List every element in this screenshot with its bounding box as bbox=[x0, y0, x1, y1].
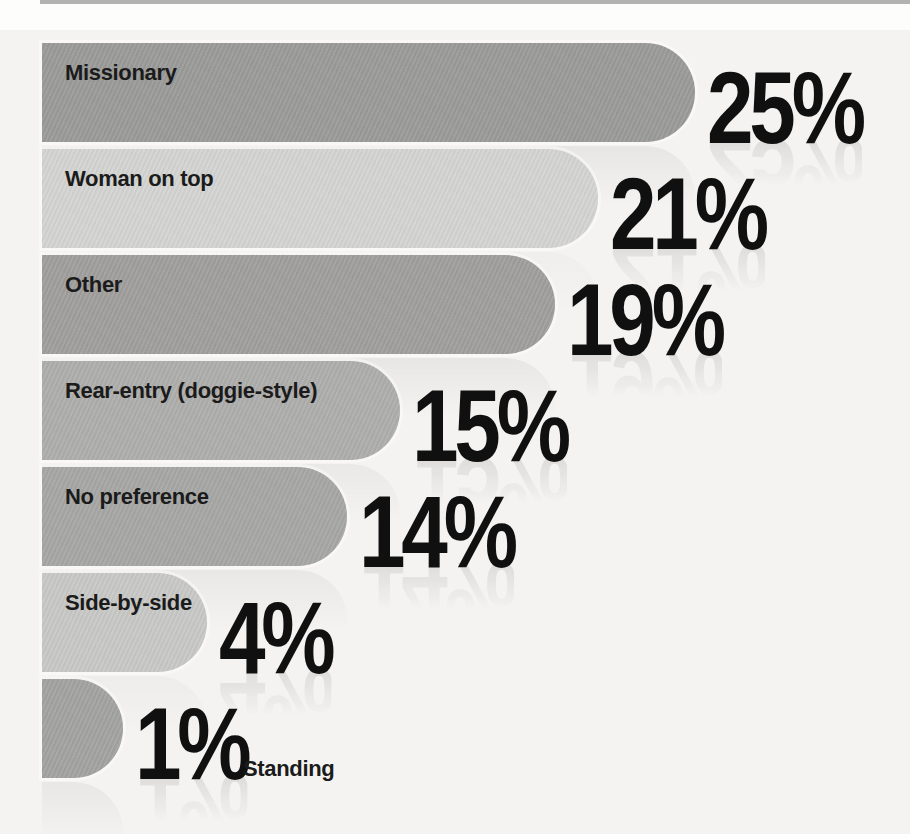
bar-label: Woman on top bbox=[65, 166, 213, 192]
bar-label: Missionary bbox=[65, 60, 177, 86]
bar: Other bbox=[42, 255, 555, 354]
value-label: 21% bbox=[610, 163, 765, 265]
value-label: 14% bbox=[359, 481, 514, 583]
value-label: 4% bbox=[219, 587, 332, 689]
bar: Missionary bbox=[42, 43, 695, 142]
bar-chart: Missionary 25% 25% Woman on top 21% 21% … bbox=[42, 43, 910, 834]
bar-row: Other 19% 19% bbox=[42, 255, 910, 354]
bar: Rear-entry (doggie-style) bbox=[42, 361, 400, 460]
value-label: 15% bbox=[412, 375, 567, 477]
bar-row: Rear-entry (doggie-style) 15% 15% bbox=[42, 361, 910, 460]
bar-label: Side-by-side bbox=[65, 590, 192, 616]
bar-label-outside: Standing bbox=[243, 756, 334, 782]
bar-row: No preference 14% 14% bbox=[42, 467, 910, 566]
bar-row: Missionary 25% 25% bbox=[42, 43, 910, 142]
value-label: 1% bbox=[135, 693, 248, 795]
value-label: 25% bbox=[707, 57, 862, 159]
bar-label: Rear-entry (doggie-style) bbox=[65, 378, 317, 404]
bar-label: No preference bbox=[65, 484, 209, 510]
bar: Side-by-side bbox=[42, 573, 207, 672]
bar-row: Woman on top 21% 21% bbox=[42, 149, 910, 248]
bar-reflection bbox=[42, 782, 123, 834]
bar: No preference bbox=[42, 467, 347, 566]
bar-row: Side-by-side 4% 4% bbox=[42, 573, 910, 672]
bar: Woman on top bbox=[42, 149, 598, 248]
bar-label: Other bbox=[65, 272, 122, 298]
bar bbox=[42, 679, 123, 778]
bar-row: 1% 1% Standing bbox=[42, 679, 910, 778]
value-label: 19% bbox=[567, 269, 722, 371]
top-band bbox=[40, 0, 910, 4]
top-strip bbox=[0, 0, 910, 30]
